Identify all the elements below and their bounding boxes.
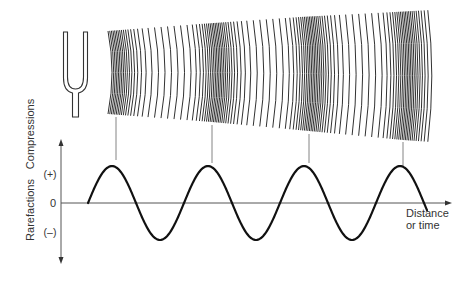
wavefront-arc (187, 25, 191, 120)
sound-wavefronts (108, 10, 432, 142)
wavefront-arc (335, 15, 339, 133)
wavefront-arc (155, 27, 159, 117)
wavefront-arc (296, 17, 300, 130)
y-axis-up-arrow-icon (59, 139, 64, 146)
wavefront-arc (168, 26, 172, 118)
wavefront-arc (339, 15, 343, 134)
wavefront-arc (253, 20, 257, 126)
wavefront-arc (161, 27, 165, 118)
wavefront-arc (148, 28, 152, 117)
wavefront-arc (202, 24, 206, 121)
wavefront-arc (142, 28, 146, 116)
wavefront-arc (231, 22, 235, 124)
x-axis-label-line1: Distance (406, 207, 449, 219)
wavefront-arc (359, 14, 363, 136)
sound-wave-diagram: Compressions Rarefactions (+) 0 (–) Dist… (0, 0, 476, 282)
wavefront-arc (352, 14, 356, 135)
wavefront-arc (181, 25, 185, 119)
wavefront-arc (365, 14, 369, 137)
minus-label: (–) (44, 226, 57, 238)
wavefront-arc (247, 21, 251, 125)
x-axis-label-line2: or time (406, 219, 440, 231)
wavefront-arc (346, 15, 350, 135)
wavefront-arc (393, 12, 397, 139)
rarefactions-label: Rarefactions (24, 179, 36, 241)
x-axis-right-arrow-icon (445, 201, 452, 206)
wavefront-arc (196, 24, 200, 121)
wavefront-arc (174, 26, 178, 119)
graph-axes (59, 139, 453, 264)
wavefront-arc (285, 18, 289, 129)
wavefront-arc (327, 16, 331, 133)
wavefront-arc (273, 19, 277, 128)
wavefront-arc (372, 13, 376, 137)
wavefront-arc (290, 18, 294, 129)
wavefront-arc (192, 25, 196, 121)
tuning-fork-icon (64, 32, 88, 117)
wavefront-arc (266, 19, 270, 127)
wavefront-arc (131, 29, 135, 115)
plus-label: (+) (43, 168, 56, 180)
wavefront-arc (383, 13, 387, 138)
wavefront-arc (378, 13, 382, 138)
y-axis-down-arrow-icon (59, 257, 64, 264)
wavefront-arc (241, 21, 245, 125)
wavefront-arc (279, 18, 283, 128)
zero-label: 0 (50, 197, 56, 209)
compressions-label: Compressions (24, 98, 36, 169)
wavefront-arc (260, 20, 264, 127)
wavefront-arc (421, 11, 425, 142)
